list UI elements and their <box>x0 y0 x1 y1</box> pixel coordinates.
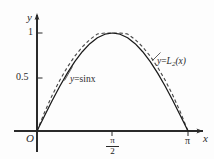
sine-curve-label: y=sinx <box>70 75 95 85</box>
quadratic-curve-label: y=L2(x) <box>157 57 186 68</box>
half-pi-numerator: π <box>106 136 119 145</box>
x-tick-label-half-pi: π 2 <box>106 136 119 157</box>
x-axis-label: x <box>203 133 208 144</box>
sine-curve <box>37 33 188 131</box>
half-pi-denominator: 2 <box>106 147 119 156</box>
x-axis <box>14 129 203 134</box>
quadratic-interpolant-curve <box>37 33 188 131</box>
y-tick-marks <box>37 33 43 78</box>
poly-label-argument: (x) <box>175 56 186 66</box>
y-tick-label-0-5: 0.5 <box>16 72 29 82</box>
x-tick-marks <box>112 131 188 136</box>
x-tick-label-pi: π <box>185 136 190 146</box>
sine-label-expression: sinx <box>80 74 96 84</box>
y-axis-label: y <box>27 12 32 23</box>
y-tick-label-1: 1 <box>28 27 33 37</box>
sine-vs-quadratic-interpolant-figure: y x O 1 0.5 π 2 π y=sinx y=L2(x) <box>0 0 214 159</box>
origin-label: O <box>26 133 34 144</box>
